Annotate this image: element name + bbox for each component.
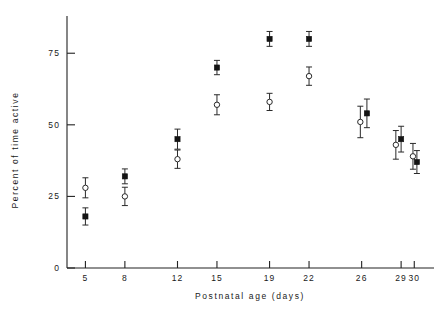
x-tick-label: 29	[395, 273, 407, 283]
data-point-open-circle	[175, 156, 180, 161]
data-point-filled-square	[175, 137, 180, 142]
series-filled	[82, 31, 419, 225]
data-point-filled-square	[364, 111, 369, 116]
data-point-open-circle	[358, 119, 363, 124]
x-axis-ticks: 5812151922262930	[83, 261, 421, 283]
data-point-open-circle	[83, 185, 88, 190]
data-point-filled-square	[399, 137, 404, 142]
y-axis-ticks: 0255075	[48, 48, 75, 273]
data-point-group	[174, 129, 180, 149]
data-point-group	[174, 150, 180, 168]
x-tick-label: 26	[356, 273, 368, 283]
chart-figure: 0255075 5812151922262930 Postnatal age (…	[0, 0, 441, 316]
data-point-open-circle	[306, 73, 311, 78]
data-point-group	[122, 169, 128, 184]
data-point-filled-square	[214, 65, 219, 70]
y-tick-label: 25	[48, 191, 60, 201]
data-point-open-circle	[410, 154, 415, 159]
series-open	[82, 67, 416, 206]
data-point-group	[82, 178, 88, 198]
data-point-filled-square	[122, 174, 127, 179]
data-point-group	[398, 126, 404, 152]
y-tick-label: 50	[48, 120, 60, 130]
data-point-group	[410, 143, 416, 169]
x-tick-label: 19	[264, 273, 276, 283]
y-tick-label: 75	[48, 48, 60, 58]
x-tick-label: 12	[172, 273, 184, 283]
x-tick-label: 15	[211, 273, 223, 283]
x-tick-label: 22	[303, 273, 315, 283]
data-point-filled-square	[306, 36, 311, 41]
data-point-group	[267, 93, 273, 110]
data-point-open-circle	[122, 194, 127, 199]
data-point-filled-square	[83, 214, 88, 219]
data-point-group	[306, 31, 312, 46]
data-point-group	[364, 99, 370, 128]
data-point-group	[393, 131, 399, 160]
data-point-open-circle	[214, 102, 219, 107]
x-tick-label: 5	[83, 273, 89, 283]
data-series-layer	[82, 31, 419, 225]
scatter-plot-canvas: 0255075 5812151922262930 Postnatal age (…	[0, 0, 441, 316]
y-axis-title: Percent of time active	[10, 92, 20, 209]
data-point-open-circle	[393, 142, 398, 147]
x-tick-label: 30	[408, 273, 420, 283]
x-tick-label: 8	[122, 273, 128, 283]
data-point-filled-square	[267, 36, 272, 41]
y-tick-label: 0	[54, 263, 60, 273]
data-point-open-circle	[267, 99, 272, 104]
data-point-group	[82, 208, 88, 225]
data-point-group	[306, 67, 312, 85]
data-point-group	[122, 187, 128, 205]
axes-group	[67, 16, 434, 268]
data-point-filled-square	[414, 159, 419, 164]
x-axis-title: Postnatal age (days)	[195, 291, 305, 301]
data-point-group	[357, 106, 363, 138]
data-point-group	[214, 95, 220, 115]
data-point-group	[214, 60, 220, 74]
data-point-group	[267, 31, 273, 46]
